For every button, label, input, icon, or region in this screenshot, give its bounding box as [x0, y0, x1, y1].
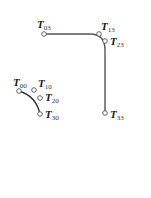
point-label-T23: T23 — [110, 35, 124, 49]
control-point-circle — [42, 32, 47, 37]
point-label-T10: T10 — [38, 77, 52, 91]
point-T30: T30 — [38, 108, 60, 122]
control-point-diagram: T03 T13 T23 T33 T00 T10 T20 T30 — [0, 0, 151, 198]
control-point-circle — [32, 88, 37, 93]
point-label-T33: T33 — [110, 108, 124, 122]
control-point-circle — [97, 32, 102, 37]
point-T00: T00 — [13, 76, 27, 93]
small-arc-curve — [19, 91, 40, 114]
point-label-T03: T03 — [37, 18, 51, 32]
point-T23: T23 — [103, 35, 125, 49]
point-label-T13: T13 — [101, 20, 115, 34]
point-T13: T13 — [97, 20, 116, 36]
point-label-T20: T20 — [45, 91, 59, 105]
point-T10: T10 — [32, 77, 53, 92]
point-label-T30: T30 — [45, 108, 59, 122]
control-point-circle — [103, 111, 108, 116]
control-point-circle — [38, 112, 43, 117]
control-point-circle — [38, 96, 43, 101]
point-label-T00: T00 — [13, 76, 27, 90]
control-point-circle — [103, 39, 108, 44]
point-T20: T20 — [38, 91, 60, 105]
point-T33: T33 — [103, 108, 125, 122]
